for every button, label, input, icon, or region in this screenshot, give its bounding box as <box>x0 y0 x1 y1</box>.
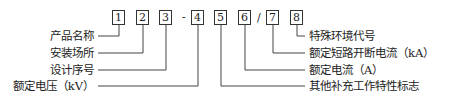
label-rated-current: 额定电流（A） <box>309 63 383 77</box>
code-box-7: 7 <box>266 10 279 25</box>
slash-separator: / <box>257 10 261 25</box>
label-rated-short-circuit-current: 额定短路开断电流（kA） <box>309 46 434 60</box>
label-design-number: 设计序号 <box>50 63 94 77</box>
label-product-name: 产品名称 <box>50 29 94 43</box>
code-box-6: 6 <box>238 10 251 25</box>
code-box-3: 3 <box>159 10 172 25</box>
label-install-location: 安装场所 <box>50 46 94 60</box>
label-rated-voltage: 额定电压（kV） <box>13 79 94 93</box>
code-box-8: 8 <box>290 10 303 25</box>
label-other-features: 其他补充工作特性标志 <box>309 79 419 93</box>
code-box-1: 1 <box>112 10 125 25</box>
code-box-5: 5 <box>214 10 227 25</box>
label-special-env-code: 特殊环境代号 <box>309 29 375 43</box>
dash-separator: - <box>182 10 186 25</box>
code-box-2: 2 <box>136 10 149 25</box>
code-box-4: 4 <box>191 10 204 25</box>
